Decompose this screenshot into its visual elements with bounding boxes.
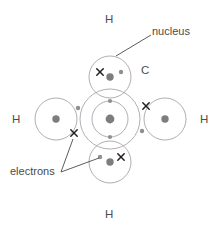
label-hydrogen-bottom: H xyxy=(105,209,113,221)
label-nucleus-callout: nucleus xyxy=(152,26,190,37)
label-electrons-callout: electrons xyxy=(10,166,55,177)
hydrogen-bond-electron-bottom-cross xyxy=(118,154,124,160)
methane-dot-cross-diagram: H H H H C nucleus electrons xyxy=(0,0,219,234)
hydrogen-bond-electron-top-cross xyxy=(97,69,103,75)
carbon-inner-electron-top xyxy=(108,99,112,103)
hydrogen-left-nucleus xyxy=(52,115,59,122)
carbon-nucleus xyxy=(106,115,115,124)
electrons-callout-line-2 xyxy=(61,158,99,172)
hydrogen-bottom-nucleus xyxy=(106,158,113,165)
carbon-inner-electron-bottom xyxy=(108,135,112,139)
hydrogen-right-nucleus xyxy=(161,115,168,122)
carbon-bond-electron-right xyxy=(140,129,144,133)
hydrogen-top-nucleus xyxy=(106,73,113,80)
electrons-callout-line-1 xyxy=(61,139,73,172)
carbon-bond-electron-left xyxy=(76,106,80,110)
label-hydrogen-right: H xyxy=(200,114,208,126)
label-hydrogen-left: H xyxy=(12,114,20,126)
carbon-bond-electron-top xyxy=(119,70,123,74)
nucleus-callout-line xyxy=(116,35,151,56)
label-carbon: C xyxy=(141,65,149,77)
label-hydrogen-top: H xyxy=(105,14,113,26)
